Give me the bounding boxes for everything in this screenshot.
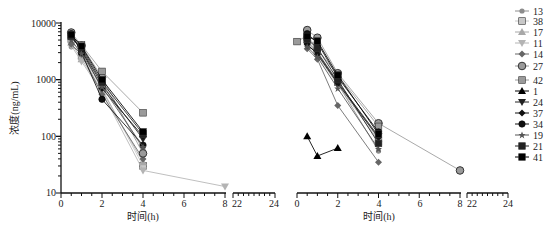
data-point-marker xyxy=(334,144,342,151)
series-14 xyxy=(304,45,382,165)
legend-marker-icon xyxy=(519,143,526,150)
data-point-marker xyxy=(221,184,229,191)
x-axis-label: 时间(h) xyxy=(363,210,395,223)
series-line xyxy=(307,49,378,162)
data-point-marker xyxy=(140,110,147,117)
series-19 xyxy=(68,37,147,151)
legend-item: 14 xyxy=(515,49,543,60)
xtick-label: 8 xyxy=(458,198,463,209)
legend-label: 27 xyxy=(533,61,543,72)
legend-label: 14 xyxy=(533,49,543,60)
chart-canvas: 10000 1000 100 10 浓度(ng/mL) 0 2 4 6 8 22… xyxy=(0,0,551,232)
right-x-axis: 0 2 4 6 8 22 24 时间(h) xyxy=(295,193,514,223)
legend-item: 17 xyxy=(515,27,543,38)
legend-marker-icon xyxy=(519,121,525,127)
legend-label: 11 xyxy=(533,38,543,49)
series-line xyxy=(307,136,338,156)
data-point-marker xyxy=(304,33,311,40)
legend-marker-icon xyxy=(518,62,526,70)
legend: 133817111427421243734192141 xyxy=(515,6,543,163)
data-point-marker xyxy=(313,152,321,159)
right-plot-series xyxy=(294,26,464,174)
legend-label: 38 xyxy=(533,16,543,27)
data-point-marker xyxy=(68,31,75,38)
data-point-marker xyxy=(334,72,341,79)
legend-label: 19 xyxy=(533,130,543,141)
xtick-label: 22 xyxy=(232,198,242,209)
data-point-marker xyxy=(303,132,311,139)
data-point-marker xyxy=(375,140,382,147)
legend-item: 34 xyxy=(515,119,543,130)
series-19 xyxy=(304,43,382,152)
xtick-label: 0 xyxy=(295,198,300,209)
series-41 xyxy=(68,31,146,135)
ytick-label: 10000 xyxy=(31,18,56,29)
data-point-marker xyxy=(99,68,106,75)
ytick-label: 100 xyxy=(41,131,56,142)
legend-item: 11 xyxy=(515,38,543,49)
xtick-label: 24 xyxy=(503,198,513,209)
data-point-marker xyxy=(99,96,105,102)
data-point-marker xyxy=(99,76,106,83)
xtick-label: 6 xyxy=(418,198,423,209)
left-plot-series xyxy=(67,29,229,191)
legend-label: 34 xyxy=(533,119,543,130)
data-point-marker xyxy=(334,102,341,109)
xtick-label: 4 xyxy=(377,198,382,209)
legend-item: 38 xyxy=(515,16,543,27)
xtick-label: 2 xyxy=(336,198,341,209)
data-point-marker xyxy=(78,43,85,50)
data-point-marker xyxy=(456,167,464,175)
xtick-label: 6 xyxy=(182,198,187,209)
xtick-label: 22 xyxy=(467,198,477,209)
legend-item: 37 xyxy=(515,108,543,119)
series-line xyxy=(307,30,460,170)
legend-marker-icon xyxy=(519,154,526,161)
legend-marker-icon xyxy=(519,77,526,84)
data-point-marker xyxy=(314,38,321,45)
legend-marker-icon xyxy=(519,110,526,117)
xtick-label: 4 xyxy=(141,198,146,209)
legend-label: 21 xyxy=(533,141,543,152)
x-axis-label: 时间(h) xyxy=(127,210,159,223)
legend-label: 24 xyxy=(533,97,543,108)
legend-label: 1 xyxy=(533,86,538,97)
legend-label: 37 xyxy=(533,108,543,119)
legend-item: 41 xyxy=(515,152,543,163)
xtick-label: 2 xyxy=(100,198,105,209)
legend-marker-icon xyxy=(519,51,526,58)
legend-item: 21 xyxy=(515,141,543,152)
legend-item: 24 xyxy=(515,97,543,108)
xtick-label: 0 xyxy=(59,198,64,209)
legend-item: 27 xyxy=(515,61,543,72)
data-point-marker xyxy=(140,129,147,136)
xtick-label: 8 xyxy=(223,198,228,209)
legend-label: 41 xyxy=(533,152,543,163)
legend-item: 19 xyxy=(515,130,543,141)
series-37 xyxy=(304,41,382,141)
data-point-marker xyxy=(375,159,382,166)
legend-marker-icon xyxy=(519,18,526,25)
ytick-label: 1000 xyxy=(36,74,56,85)
legend-label: 42 xyxy=(533,75,543,86)
legend-item: 1 xyxy=(515,86,538,97)
xtick-label: 24 xyxy=(269,198,279,209)
ytick-label: 10 xyxy=(46,187,56,198)
left-x-axis: 0 2 4 6 8 22 24 时间(h) xyxy=(59,193,280,223)
series-1 xyxy=(303,132,342,159)
data-point-marker xyxy=(139,150,147,158)
figure: 10000 1000 100 10 浓度(ng/mL) 0 2 4 6 8 22… xyxy=(0,0,551,232)
left-y-axis: 10000 1000 100 10 浓度(ng/mL) xyxy=(8,18,61,198)
legend-item: 42 xyxy=(515,75,543,86)
data-point-marker xyxy=(375,131,382,138)
y-axis-label: 浓度(ng/mL) xyxy=(8,81,21,134)
data-point-marker xyxy=(294,38,301,45)
legend-marker-icon xyxy=(519,8,524,13)
legend-label: 17 xyxy=(533,27,543,38)
